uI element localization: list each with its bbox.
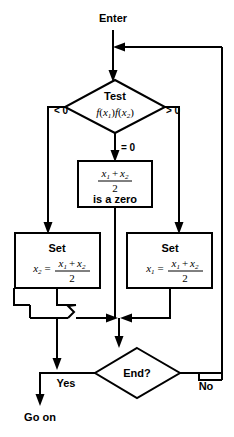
- arrowhead-setleft-to-yes-row: [53, 358, 62, 370]
- flowchart-page: Enter Test f(x1)f(x2) < 0 = 0 > 0 x1+x2 …: [0, 0, 234, 437]
- arrowhead-merge-from-right: [120, 314, 132, 323]
- set-left-equals: =: [45, 262, 51, 274]
- set-left-numerator: x1+x2: [58, 257, 87, 271]
- set-left-num-x1-sub: 1: [63, 263, 67, 271]
- connector-test-left-branch: [48, 107, 65, 226]
- set-left-title: Set: [48, 242, 65, 254]
- set-right-equals: =: [158, 262, 164, 274]
- set-left-lhs-sub: 2: [38, 268, 42, 276]
- set-right-num-plus: +: [182, 257, 188, 269]
- set-right-numerator: x1+x2: [171, 257, 200, 271]
- zero-box-numerator: x1+x2: [101, 167, 130, 181]
- connector-end-no: [180, 373, 222, 380]
- label-branch-less-than: < 0: [54, 105, 69, 116]
- label-go-on: Go on: [24, 411, 56, 423]
- zero-num-x2-sub: 2: [125, 173, 129, 181]
- connector-setleft-out-upper: [57, 288, 76, 305]
- connector-setright-to-merge: [128, 288, 170, 318]
- zero-num-plus: +: [112, 167, 118, 179]
- connector-test-right-branch: [165, 107, 179, 226]
- decision-end-label: End?: [123, 367, 151, 379]
- label-branch-yes: Yes: [57, 377, 76, 389]
- zero-num-x1-sub: 1: [106, 173, 110, 181]
- label-enter: Enter: [99, 12, 128, 24]
- connector-line-hop: [68, 305, 76, 318]
- zero-box-caption: is a zero: [93, 193, 137, 205]
- set-right-denominator: 2: [182, 272, 188, 284]
- arrowhead-return-to-enter: [113, 43, 125, 52]
- arrowhead-merge-to-end: [115, 336, 124, 348]
- set-left-denominator: 2: [69, 272, 75, 284]
- decision-test-title: Test: [104, 90, 126, 102]
- set-right-num-x1-sub: 1: [176, 263, 180, 271]
- set-left-num-x2-sub: 2: [82, 263, 86, 271]
- label-branch-equals: = 0: [121, 142, 136, 153]
- arrowhead-merge-from-left: [106, 314, 118, 323]
- label-branch-no: No: [199, 380, 214, 392]
- set-right-lhs-sub: 1: [151, 268, 155, 276]
- label-branch-greater-than: > 0: [166, 105, 181, 116]
- set-right-title: Set: [161, 242, 178, 254]
- arrowhead-end-yes: [36, 394, 45, 406]
- flowchart-canvas: Enter Test f(x1)f(x2) < 0 = 0 > 0 x1+x2 …: [0, 0, 234, 437]
- set-right-num-x2-sub: 2: [195, 263, 199, 271]
- connector-setleft-riser: [14, 288, 30, 305]
- set-left-num-plus: +: [69, 257, 75, 269]
